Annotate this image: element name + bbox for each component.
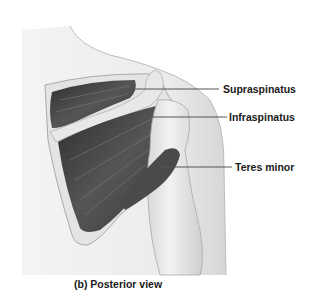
label-teres-minor: Teres minor [235, 161, 294, 173]
label-supraspinatus: Supraspinatus [223, 83, 296, 95]
label-infraspinatus: Infraspinatus [229, 111, 295, 123]
figure-caption: (b) Posterior view [74, 278, 162, 290]
shoulder-illustration [0, 0, 312, 299]
anatomy-figure: Supraspinatus Infraspinatus Teres minor … [0, 0, 312, 299]
